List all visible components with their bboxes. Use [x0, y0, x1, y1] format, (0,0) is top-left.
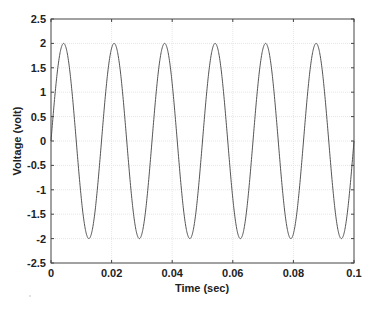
x-axis-label: Time (sec): [175, 282, 230, 294]
x-tick-label: 0: [48, 267, 54, 279]
stray-dot: [29, 295, 31, 297]
y-tick-label: -1.5: [27, 208, 46, 220]
x-tick-label: 0.04: [161, 267, 183, 279]
y-tick-label: 2: [40, 37, 46, 49]
voltage-sine-curve: [51, 43, 354, 238]
y-tick-label: -2.5: [27, 257, 46, 269]
x-tick-label: 0.1: [346, 267, 361, 279]
y-tick-label: -0.5: [27, 159, 46, 171]
y-tick-label: 2.5: [31, 13, 46, 25]
voltage-time-chart: 00.020.040.060.080.1 2.521.510.50-0.5-1-…: [0, 0, 376, 309]
x-tick-label: 0.06: [222, 267, 243, 279]
y-axis-label: Voltage (volt): [11, 106, 23, 175]
y-tick-label: -2: [36, 233, 46, 245]
y-tick-labels: 2.521.510.50-0.5-1-1.5-2-2.5: [27, 13, 46, 269]
x-tick-label: 0.08: [283, 267, 304, 279]
y-tick-label: 0: [40, 135, 46, 147]
y-tick-label: 0.5: [31, 111, 46, 123]
x-tick-labels: 00.020.040.060.080.1: [48, 267, 362, 279]
y-tick-label: -1: [36, 184, 46, 196]
x-tick-label: 0.02: [101, 267, 122, 279]
y-tick-label: 1.5: [31, 62, 46, 74]
y-tick-label: 1: [40, 86, 46, 98]
